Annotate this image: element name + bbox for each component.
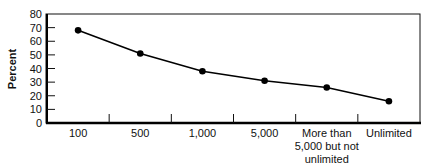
x-tick-label-line: 100	[69, 127, 87, 139]
data-point	[75, 27, 82, 34]
x-tick-label-line: unlimited	[305, 153, 349, 165]
x-tick-label: 1,000	[189, 127, 217, 139]
data-point	[386, 98, 393, 105]
data-point	[137, 50, 144, 57]
y-tick-label: 80	[30, 8, 42, 20]
y-tick-label: 30	[30, 76, 42, 88]
x-tick-label: More than5,000 but notunlimited	[295, 127, 359, 165]
y-tick-label: 60	[30, 35, 42, 47]
x-tick-label-line: 500	[131, 127, 149, 139]
x-tick-label: 500	[131, 127, 149, 139]
y-tick-label: 70	[30, 22, 42, 34]
y-tick-label: 50	[30, 49, 42, 61]
series-line	[78, 30, 389, 101]
data-point	[199, 68, 206, 75]
y-axis-title: Percent	[6, 48, 18, 89]
x-tick-label: Unlimited	[366, 127, 412, 139]
data-point	[261, 77, 268, 84]
y-tick-label: 20	[30, 90, 42, 102]
x-tick-label-line: 1,000	[189, 127, 217, 139]
x-tick-label-line: More than	[302, 127, 352, 139]
x-tick-label: 100	[69, 127, 87, 139]
line-chart: Percent 01020304050607080 1005001,0005,0…	[0, 0, 430, 168]
y-tick-label: 10	[30, 103, 42, 115]
x-tick-label-line: 5,000	[251, 127, 279, 139]
y-tick-label: 40	[30, 63, 42, 75]
x-tick-label-line: 5,000 but not	[295, 140, 359, 152]
x-tick-label: 5,000	[251, 127, 279, 139]
data-point	[323, 84, 330, 91]
plot-frame	[46, 14, 420, 123]
x-tick-label-line: Unlimited	[366, 127, 412, 139]
y-tick-label: 0	[36, 117, 42, 129]
